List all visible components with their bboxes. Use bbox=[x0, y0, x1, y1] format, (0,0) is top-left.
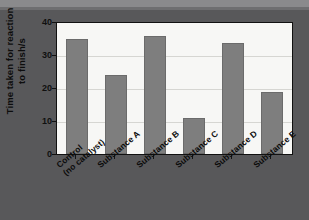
bar-substance-b bbox=[144, 36, 166, 154]
bar-chart-figure: Time taken for reaction to finish/s 40 3… bbox=[0, 0, 309, 220]
y-tick-label-20: 20 bbox=[30, 84, 52, 93]
y-axis-ticks: 40 30 20 10 0 bbox=[22, 0, 52, 220]
y-tick-label-30: 30 bbox=[30, 51, 52, 60]
y-tick-label-10: 10 bbox=[30, 117, 52, 126]
y-tick-label-40: 40 bbox=[30, 18, 52, 27]
y-tick-label-0: 0 bbox=[30, 150, 52, 159]
y-axis-title-line1: Time taken for reaction bbox=[4, 8, 15, 115]
